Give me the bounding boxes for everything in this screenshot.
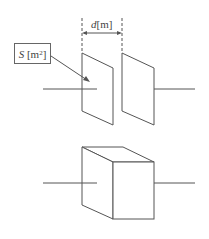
plate-right [122, 53, 154, 125]
cube-front-face [113, 162, 154, 219]
area-label-box: S [m2] [14, 43, 51, 64]
distance-label: d[m] [91, 19, 112, 30]
arrowhead-left [82, 31, 87, 35]
distance-unit: [m] [97, 18, 113, 30]
area-unit-exponent: 2 [39, 49, 43, 57]
arrowhead-right [117, 31, 122, 35]
capacitor-diagram [0, 0, 209, 239]
area-unit-close: ] [43, 48, 47, 60]
area-symbol: S [19, 48, 25, 60]
area-unit-base: [m [27, 48, 39, 60]
